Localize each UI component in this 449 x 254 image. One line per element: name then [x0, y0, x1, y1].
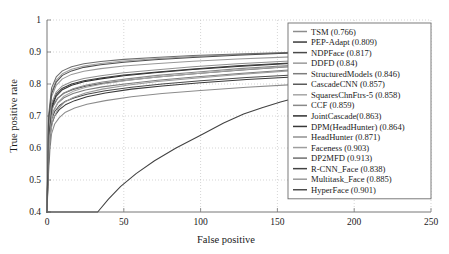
y-tick-label: 1	[36, 15, 41, 25]
x-tick-label: 50	[119, 217, 129, 227]
legend-item-label[interactable]: HyperFace (0.901)	[311, 185, 376, 195]
legend-item-label[interactable]: TSM (0.766)	[311, 27, 356, 37]
y-tick-label: 0.4	[29, 207, 41, 217]
y-axis-label: True positive rate	[8, 79, 19, 153]
legend[interactable]: TSM (0.766)PEP-Adapt (0.809)NDPFace (0.8…	[288, 23, 431, 199]
roc-chart-svg: 050100150200250 0.40.50.60.70.80.91 Fals…	[0, 0, 449, 254]
legend-item-label[interactable]: Faceness (0.903)	[311, 143, 369, 153]
y-tick-label: 0.7	[29, 111, 41, 121]
legend-item-label[interactable]: Multitask_Face (0.885)	[311, 174, 392, 184]
legend-item-label[interactable]: DP2MFD (0.913)	[311, 153, 372, 163]
legend-item-label[interactable]: NDPFace (0.817)	[311, 48, 372, 58]
y-tick-label: 0.5	[29, 175, 41, 185]
x-tick-label: 100	[193, 217, 208, 227]
roc-chart-figure: 050100150200250 0.40.50.60.70.80.91 Fals…	[0, 0, 449, 254]
y-tick-label: 0.9	[29, 47, 41, 57]
x-tick-label: 0	[45, 217, 50, 227]
legend-item-label[interactable]: CascadeCNN (0.857)	[311, 79, 385, 89]
x-tick-label: 250	[424, 217, 439, 227]
y-tick-label: 0.8	[29, 79, 41, 89]
legend-item-label[interactable]: DDFD (0.84)	[311, 58, 357, 68]
x-tick-label: 150	[270, 217, 285, 227]
legend-item-label[interactable]: HeadHunter (0.871)	[311, 132, 380, 142]
legend-item-label[interactable]: SquaresChnFtrs-5 (0.858)	[311, 90, 400, 100]
y-tick-label: 0.6	[29, 143, 41, 153]
legend-item-label[interactable]: PEP-Adapt (0.809)	[311, 37, 377, 47]
legend-item-label[interactable]: CCF (0.859)	[311, 100, 355, 110]
legend-item-label[interactable]: JointCascade(0.863)	[311, 111, 382, 121]
legend-item-label[interactable]: StructuredModels (0.846)	[311, 69, 400, 79]
legend-item-label[interactable]: DPM(HeadHunter) (0.864)	[311, 122, 405, 132]
legend-item-label[interactable]: R-CNN_Face (0.838)	[311, 164, 386, 174]
x-axis-label: False positive	[197, 234, 255, 245]
x-tick-label: 200	[347, 217, 362, 227]
